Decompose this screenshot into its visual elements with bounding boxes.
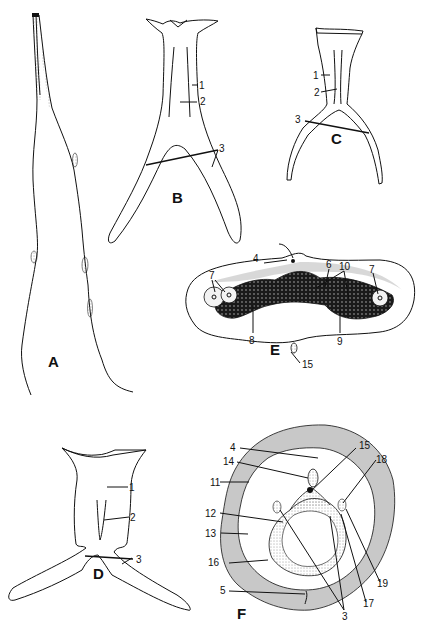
callout-f-11: 11 [210, 477, 221, 488]
callout-c-3: 3 [295, 114, 301, 125]
callout-b-3: 3 [219, 143, 225, 154]
panel-b-drawing [108, 19, 241, 243]
callout-f-16: 16 [208, 557, 220, 568]
callout-f-14: 14 [223, 456, 235, 467]
panel-d-drawing [9, 448, 191, 610]
callout-e-8: 8 [249, 335, 255, 346]
callout-f-4: 4 [230, 442, 236, 453]
callout-e-15: 15 [302, 359, 314, 370]
callout-e-6: 6 [326, 259, 332, 270]
callout-f-3: 3 [342, 611, 348, 622]
callout-e-4: 4 [253, 253, 259, 264]
figure-canvas: A 1 2 3 B 1 2 3 C [0, 0, 424, 626]
callout-b-2: 2 [200, 96, 206, 107]
panel-label-b: B [172, 189, 183, 206]
callout-f-15: 15 [359, 440, 371, 451]
panel-a-drawing [21, 13, 133, 395]
panel-e-drawing [186, 244, 415, 363]
callout-e-7-right: 7 [369, 264, 375, 275]
callout-f-12: 12 [205, 508, 217, 519]
callout-b-1: 1 [199, 80, 205, 91]
panel-f-drawing [220, 425, 395, 610]
callout-e-7-left: 7 [209, 270, 215, 281]
callout-d-1: 1 [129, 482, 135, 493]
callout-e-10: 10 [339, 261, 351, 272]
callout-f-19: 19 [377, 578, 389, 589]
callout-f-18: 18 [376, 454, 388, 465]
panel-label-d: D [93, 565, 104, 582]
panel-label-a: A [48, 353, 59, 370]
panel-label-e: E [270, 341, 280, 358]
callout-c-2: 2 [314, 87, 320, 98]
callout-c-1: 1 [313, 70, 319, 81]
callout-f-17: 17 [363, 598, 375, 609]
callout-f-5: 5 [220, 585, 226, 596]
panel-label-f: F [237, 605, 246, 622]
panel-label-c: C [331, 130, 342, 147]
callout-f-13: 13 [205, 528, 217, 539]
callout-d-3: 3 [136, 554, 142, 565]
callout-d-2: 2 [130, 512, 136, 523]
callout-e-9: 9 [337, 336, 343, 347]
panel-c-drawing [287, 28, 382, 184]
